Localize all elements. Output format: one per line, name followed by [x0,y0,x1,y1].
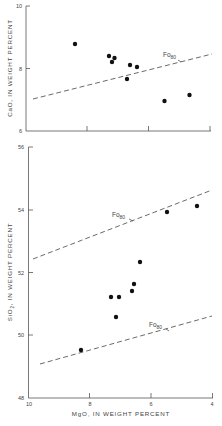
sio2-ytick-label-50: 50 [18,332,24,338]
data-point [117,295,121,299]
data-point [79,348,83,352]
sio2-fo80-lower-leader [166,329,169,331]
data-point [132,282,136,286]
data-point [162,99,166,103]
sio2-xtick-label-8: 8 [88,401,91,407]
data-point [165,210,169,214]
cao-fo80-leader [178,60,181,62]
sio2-ytick-label-54: 54 [18,207,24,213]
x-axis-label: MgO, IN WEIGHT PERCENT [72,410,170,417]
sio2-data-points [79,204,199,352]
sio2-fo80-upper-leader [129,219,133,221]
sio2-xtick-label-10: 10 [26,401,32,407]
sio2-ytick-label-52: 52 [18,270,24,276]
cao-fo80-label: Fo80 [163,51,176,60]
data-point [187,93,191,97]
sio2-fo80-lower-line [40,316,212,364]
data-point [73,42,77,46]
sio2-xtick-label-6: 6 [149,401,152,407]
data-point [109,295,113,299]
sio2-xtick-label-4: 4 [210,401,213,407]
figure: 10 8 6 CaO, IN WEIGHT PERCENT Fo80 [0,0,222,426]
data-point [114,315,118,319]
sio2-fo80-upper-line [33,190,212,259]
sio2-ytick-label-48: 48 [18,395,24,401]
cao-ytick-label-6: 6 [19,128,22,134]
data-point [128,63,132,67]
cao-y-axis-label: CaO, IN WEIGHT PERCENT [6,19,13,117]
data-point [107,54,111,58]
sio2-fo80-lower-label: Fo80 [149,321,162,330]
sio2-y-axis-label: SiO2, IN WEIGHT PERCENT [6,223,15,322]
data-point [138,260,142,264]
cao-chart: 10 8 6 CaO, IN WEIGHT PERCENT Fo80 [6,3,212,134]
sio2-fo80-upper-label: Fo80 [112,211,125,220]
data-point [130,289,134,293]
cao-ytick-label-10: 10 [16,3,22,9]
data-point [125,77,129,81]
cao-data-points [73,42,192,103]
cao-fo80-line [33,54,212,99]
data-point [112,56,116,60]
sio2-chart: 56 54 52 50 48 10 8 6 4 MgO, IN WEIGHT P… [6,144,214,417]
cao-ytick-label-8: 8 [19,66,22,72]
sio2-ytick-label-56: 56 [18,144,24,150]
data-point [135,65,139,69]
data-point [195,204,199,208]
data-point [110,60,114,64]
